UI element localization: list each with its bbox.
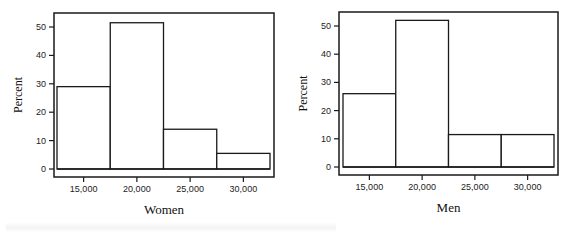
y-tick-label: 30 [321, 77, 331, 87]
y-tick-label: 50 [36, 22, 46, 32]
histogram-bar [396, 20, 449, 167]
y-tick-label: 10 [36, 136, 46, 146]
y-tick-label: 50 [321, 21, 331, 31]
y-axis-label: Percent [296, 75, 310, 112]
y-tick-label: 20 [321, 106, 331, 116]
y-axis-label: Percent [11, 76, 25, 113]
histogram-figure: 0102030405015,00020,00025,00030,000Perce… [0, 0, 569, 232]
y-tick-label: 40 [321, 49, 331, 59]
histogram-bar [449, 135, 502, 167]
x-axis-title: Men [437, 200, 461, 215]
y-tick-label: 10 [321, 134, 331, 144]
histogram-bar [164, 129, 217, 169]
men-histogram: 0102030405015,00020,00025,00030,000Perce… [296, 12, 558, 215]
histogram-bar [501, 135, 554, 167]
x-tick-label: 20,000 [408, 182, 436, 192]
x-tick-label: 15,000 [356, 182, 384, 192]
x-tick-label: 30,000 [230, 184, 258, 194]
x-tick-label: 25,000 [176, 184, 204, 194]
x-tick-label: 30,000 [514, 182, 542, 192]
x-tick-label: 25,000 [461, 182, 489, 192]
histogram-bar [57, 87, 110, 169]
figure-caption-cutoff [6, 222, 336, 232]
x-axis-title: Women [144, 202, 185, 217]
y-tick-label: 20 [36, 107, 46, 117]
histogram-bar [343, 94, 396, 167]
histogram-bar [110, 23, 163, 169]
y-tick-label: 40 [36, 50, 46, 60]
histogram-bar [217, 153, 270, 169]
women-histogram: 0102030405015,00020,00025,00030,000Perce… [11, 13, 274, 217]
x-tick-label: 20,000 [123, 184, 151, 194]
y-tick-label: 0 [326, 162, 331, 172]
figure: 0102030405015,00020,00025,00030,000Perce… [0, 0, 569, 232]
x-tick-label: 15,000 [70, 184, 98, 194]
y-tick-label: 0 [41, 164, 46, 174]
y-tick-label: 30 [36, 79, 46, 89]
